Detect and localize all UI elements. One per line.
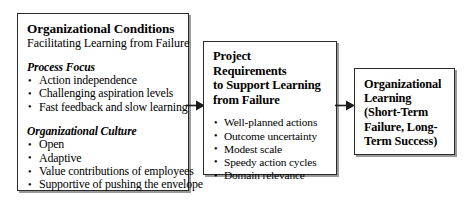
box-title: Organizational Conditions	[27, 21, 182, 36]
list-item: Adaptive	[27, 152, 182, 165]
box-organizational-conditions: Organizational Conditions Facilitating L…	[17, 13, 189, 191]
box-subtitle: Facilitating Learning from Failure	[27, 36, 182, 50]
box-title-line: Term Success)	[364, 134, 449, 148]
list-item: Supportive of pushing the envelope	[27, 178, 182, 191]
list-item: Challenging aspiration levels	[27, 87, 182, 100]
box-title-line: to Support Learning	[213, 78, 331, 93]
bullet-list-organizational-culture: Open Adaptive Value contributions of emp…	[27, 138, 182, 192]
list-item: Action independence	[27, 74, 182, 87]
box-title-line: from Failure	[213, 93, 331, 108]
list-item: Domain relevance	[213, 169, 331, 182]
list-item: Fast feedback and slow learning	[27, 101, 182, 114]
bullet-list-process-focus: Action independence Challenging aspirati…	[27, 74, 182, 114]
list-item: Value contributions of employees	[27, 165, 182, 178]
box-project-requirements: Project Requirements to Support Learning…	[203, 41, 337, 175]
box-title-line: Project	[213, 49, 331, 64]
box-title-line: Learning	[364, 91, 449, 105]
list-item: Well-planned actions	[213, 116, 331, 129]
flow-diagram: Organizational Conditions Facilitating L…	[0, 0, 469, 208]
box-title-line: (Short-Term	[364, 105, 449, 119]
box-organizational-learning: Organizational Learning (Short-Term Fail…	[354, 68, 455, 155]
list-item: Modest scale	[213, 143, 331, 156]
list-item: Speedy action cycles	[213, 156, 331, 169]
box-title-line: Requirements	[213, 64, 331, 79]
box-title-line: Organizational	[364, 77, 449, 91]
box-title-line: Failure, Long-	[364, 120, 449, 134]
list-item: Outcome uncertainty	[213, 130, 331, 143]
list-item: Open	[27, 138, 182, 151]
bullet-list-requirements: Well-planned actions Outcome uncertainty…	[213, 116, 331, 182]
